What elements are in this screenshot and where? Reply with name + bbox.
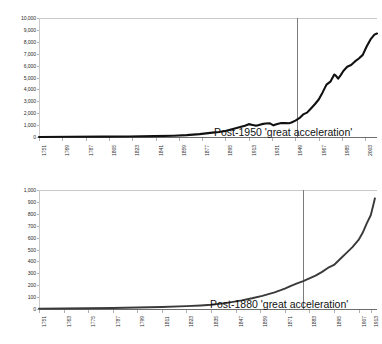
series-line [0,0,382,172]
series-line [0,172,382,344]
acceleration-annotation: Post-1880 'great acceleration' [210,298,348,310]
chart-top: 01,0002,0003,0004,0005,0006,0007,0008,00… [0,0,382,172]
acceleration-annotation: Post-1950 'great acceleration' [214,126,352,138]
chart-bottom: 01002003004005006007008009001,0001751176… [0,172,382,344]
figure-two-stacked-line-charts: 01,0002,0003,0004,0005,0006,0007,0008,00… [0,0,382,344]
